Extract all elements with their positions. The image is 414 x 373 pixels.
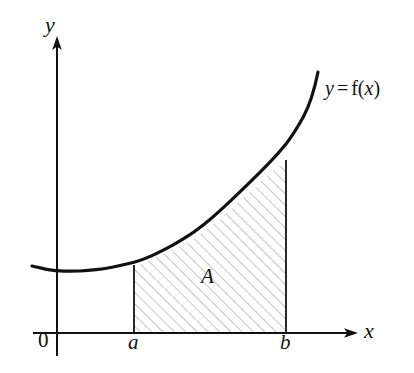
origin-label: 0 (38, 330, 49, 351)
function-label-y: y (325, 77, 334, 99)
function-label-close-paren: ) (373, 77, 380, 99)
tick-label-b: b (280, 332, 291, 353)
tick-label-a: a (128, 332, 139, 353)
function-label-equals: = (334, 77, 351, 99)
region-label-A: A (201, 266, 214, 287)
function-curve-label: y=f(x) (325, 78, 380, 98)
y-axis-label: y (45, 14, 55, 36)
shaded-region-A (130, 150, 292, 338)
x-axis-label: x (364, 320, 374, 342)
y-axis (52, 36, 62, 356)
function-label-open-paren: ( (358, 77, 365, 99)
figure-canvas: y x 0 a b A y=f(x) (0, 0, 414, 373)
region-hatch-fill (130, 150, 292, 338)
function-label-f: f (351, 77, 358, 99)
area-under-curve-figure (0, 0, 414, 373)
